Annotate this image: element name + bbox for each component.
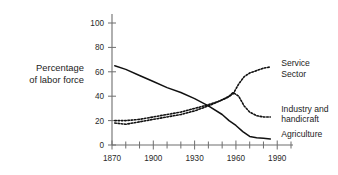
- axes: [108, 14, 293, 150]
- y-tick-label: 60: [95, 68, 105, 77]
- y-tick-label: 80: [95, 43, 105, 52]
- x-tick-label: 1960: [227, 154, 246, 163]
- y-tick-label: 20: [95, 117, 105, 126]
- series-label: Agriculture: [281, 129, 322, 140]
- x-tick-label: 1990: [268, 154, 287, 163]
- plot-area: 02040608010018701900193019601990: [0, 0, 338, 175]
- labor-force-chart: Percentage of labor force 02040608010018…: [0, 0, 338, 175]
- data-series: [115, 66, 271, 139]
- y-tick-label: 100: [90, 19, 104, 28]
- y-tick-label: 0: [99, 141, 104, 150]
- series-label: Industry and handicraft: [281, 104, 328, 125]
- y-tick-label: 40: [95, 92, 105, 101]
- x-tick-label: 1930: [186, 154, 205, 163]
- series-line: [115, 66, 271, 139]
- x-tick-label: 1870: [103, 154, 122, 163]
- series-label: Service Sector: [281, 58, 310, 79]
- tick-labels: 02040608010018701900193019601990: [90, 19, 286, 163]
- x-tick-label: 1900: [144, 154, 163, 163]
